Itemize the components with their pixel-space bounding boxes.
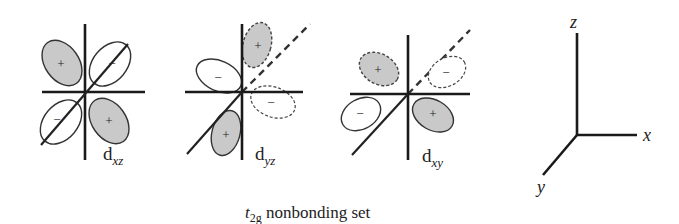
svg-text:+: + <box>105 113 112 128</box>
svg-text:+: + <box>429 106 436 121</box>
svg-text:−: − <box>442 65 449 80</box>
lobe-dyz-right-back: − <box>246 80 299 124</box>
svg-text:+: + <box>254 38 261 53</box>
coordinate-axes: z x y <box>535 12 651 197</box>
orbital-dyz: + − − + dyz <box>185 19 310 168</box>
orbital-dxz: + − − + dxz <box>32 24 145 168</box>
lobe-dxz-upper-left: + <box>34 33 91 93</box>
svg-text:+: + <box>222 127 229 142</box>
z-axis-label: z <box>569 12 577 32</box>
dxy-label: dxy <box>422 145 443 170</box>
lobe-dyz-lower: + <box>207 107 246 159</box>
svg-text:−: − <box>267 95 274 110</box>
y-axis-label: y <box>535 177 545 197</box>
caption: t2g nonbonding set <box>245 203 371 224</box>
y-axis-line <box>543 135 577 175</box>
svg-text:+: + <box>374 62 381 77</box>
lobe-dxy-upper-left: + <box>353 46 404 93</box>
x-axis-label: x <box>642 125 651 145</box>
svg-text:−: − <box>356 106 363 121</box>
lobe-dxy-upper-right: − <box>423 50 472 94</box>
lobe-dxy-lower-right: + <box>406 91 459 139</box>
dyz-label: dyz <box>255 143 275 168</box>
svg-text:−: − <box>214 70 221 85</box>
svg-text:+: + <box>57 56 64 71</box>
t2g-orbital-diagram: + − − + dxz + − <box>0 0 679 224</box>
dxz-label: dxz <box>103 143 123 168</box>
lobe-dxy-lower-left: − <box>335 91 386 138</box>
orbital-dxy: + − − + dxy <box>335 30 471 170</box>
